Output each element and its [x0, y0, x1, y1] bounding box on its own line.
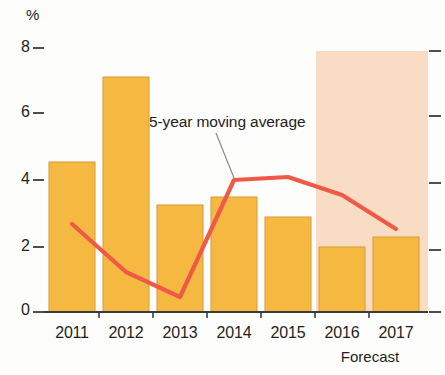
y-axis-unit-label: %: [26, 6, 40, 23]
y-tick-label-4: 4: [4, 170, 30, 188]
bar-2017: [373, 237, 419, 312]
y-axis-ticks-right: [429, 51, 441, 312]
annotation-leader-line: [216, 133, 234, 178]
x-tick-label-2015: 2015: [258, 324, 318, 342]
x-tick-label-2016: 2016: [312, 324, 372, 342]
y-tick-label-6: 6: [4, 103, 30, 121]
x-tick-label-2013: 2013: [150, 324, 210, 342]
forecast-caption: Forecast: [325, 348, 415, 365]
bar-2016: [319, 247, 365, 312]
x-tick-label-2011: 2011: [42, 324, 102, 342]
bar-2015: [265, 217, 311, 312]
chart-plot-area: [0, 0, 445, 375]
y-tick-label-0: 0: [4, 301, 30, 319]
y-tick-label-8: 8: [4, 38, 30, 56]
y-axis-ticks-left: [33, 48, 44, 312]
bar-2012: [103, 77, 149, 312]
moving-average-annotation: 5-year moving average: [149, 113, 305, 131]
x-tick-label-2017: 2017: [366, 324, 426, 342]
x-tick-label-2014: 2014: [204, 324, 264, 342]
x-tick-label-2012: 2012: [96, 324, 156, 342]
chart-container: % 8 6 4 2 0 2011 2012 2013 2014 2015 201…: [0, 0, 445, 375]
y-tick-label-2: 2: [4, 237, 30, 255]
